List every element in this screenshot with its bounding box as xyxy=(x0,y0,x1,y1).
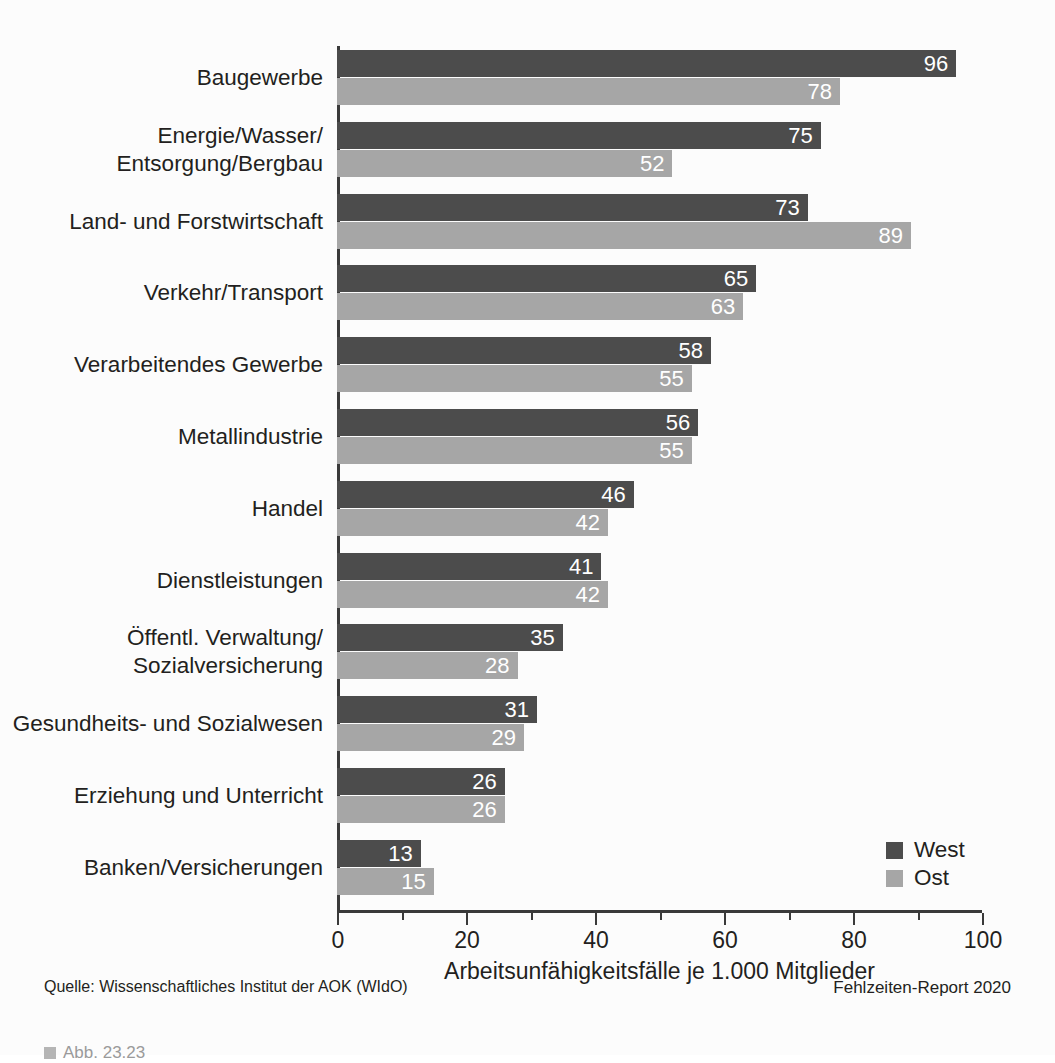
bar-value-label: 65 xyxy=(724,265,756,292)
category-label: Verkehr/Transport xyxy=(0,265,323,321)
caption-text: Abb. 23.23 xyxy=(63,1043,145,1063)
bar-ost[interactable] xyxy=(337,437,692,464)
figure-caption: Abb. 23.23 xyxy=(44,1043,145,1063)
bar-value-label: 26 xyxy=(472,768,504,795)
category-label-text: Baugewerbe xyxy=(197,64,323,92)
bar-value-label: 42 xyxy=(575,509,607,536)
bar-west[interactable] xyxy=(337,122,821,149)
category-label-text: Erziehung und Unterricht xyxy=(74,782,323,810)
bar-value-label: 89 xyxy=(879,222,911,249)
category-label-text: Banken/Versicherungen xyxy=(84,854,323,882)
bar-value-label: 31 xyxy=(504,696,536,723)
category-label-text: Verkehr/Transport xyxy=(144,279,323,307)
bar-west[interactable] xyxy=(337,553,601,580)
category-label: Öffentl. Verwaltung/ Sozialversicherung xyxy=(0,624,323,680)
bar-west[interactable] xyxy=(337,409,698,436)
bar-value-label: 35 xyxy=(530,624,562,651)
bar-value-label: 28 xyxy=(485,652,517,679)
bar-west[interactable] xyxy=(337,50,956,77)
bar-west[interactable] xyxy=(337,265,756,292)
bar-value-label: 26 xyxy=(472,796,504,823)
x-tick-major xyxy=(853,913,855,925)
x-tick-major xyxy=(982,913,984,925)
bar-ost[interactable] xyxy=(337,293,743,320)
x-tick-label: 40 xyxy=(583,927,609,954)
category-label: Metallindustrie xyxy=(0,409,323,465)
bar-value-label: 55 xyxy=(659,437,691,464)
category-label: Baugewerbe xyxy=(0,50,323,106)
bar-ost[interactable] xyxy=(337,365,692,392)
bar-ost[interactable] xyxy=(337,150,672,177)
category-label-text: Dienstleistungen xyxy=(157,567,323,595)
bar-west[interactable] xyxy=(337,194,808,221)
category-label-text: Verarbeitendes Gewerbe xyxy=(74,351,323,379)
x-tick-label: 100 xyxy=(964,927,1002,954)
bar-value-label: 96 xyxy=(924,50,956,77)
bar-ost[interactable] xyxy=(337,78,840,105)
category-label: Handel xyxy=(0,481,323,537)
bar-value-label: 29 xyxy=(492,724,524,751)
category-label-text: Land- und Forstwirtschaft xyxy=(69,208,323,236)
category-label: Gesundheits- und Sozialwesen xyxy=(0,696,323,752)
category-label-text: Metallindustrie xyxy=(178,423,323,451)
bar-value-label: 55 xyxy=(659,365,691,392)
caption-marker-icon xyxy=(44,1047,56,1059)
bar-west[interactable] xyxy=(337,624,563,651)
category-label-text: Energie/Wasser/ Entsorgung/Bergbau xyxy=(117,122,323,178)
bar-ost[interactable] xyxy=(337,222,911,249)
bar-value-label: 52 xyxy=(640,150,672,177)
x-tick-label: 0 xyxy=(332,927,345,954)
category-label: Banken/Versicherungen xyxy=(0,840,323,896)
category-label: Dienstleistungen xyxy=(0,553,323,609)
legend-item-west: West xyxy=(886,836,965,864)
bar-value-label: 46 xyxy=(601,481,633,508)
category-label: Energie/Wasser/ Entsorgung/Bergbau xyxy=(0,122,323,178)
legend-label-west: West xyxy=(914,837,965,863)
bar-value-label: 41 xyxy=(569,553,601,580)
x-tick-major xyxy=(337,913,339,925)
category-label-text: Handel xyxy=(252,495,323,523)
bar-value-label: 15 xyxy=(401,868,433,895)
bar-value-label: 75 xyxy=(788,122,820,149)
x-tick-major xyxy=(466,913,468,925)
x-tick-minor xyxy=(789,913,791,920)
x-tick-major xyxy=(724,913,726,925)
legend-swatch-ost-icon xyxy=(886,870,903,887)
bar-value-label: 58 xyxy=(679,337,711,364)
chart-legend: West Ost xyxy=(886,836,965,892)
x-tick-minor xyxy=(402,913,404,920)
bar-value-label: 56 xyxy=(666,409,698,436)
bar-value-label: 42 xyxy=(575,581,607,608)
bar-west[interactable] xyxy=(337,337,711,364)
category-label-text: Gesundheits- und Sozialwesen xyxy=(13,710,323,738)
legend-label-ost: Ost xyxy=(914,865,949,891)
source-note: Quelle: Wissenschaftliches Institut der … xyxy=(44,978,408,996)
bar-value-label: 63 xyxy=(711,293,743,320)
legend-item-ost: Ost xyxy=(886,864,965,892)
legend-swatch-west-icon xyxy=(886,842,903,859)
x-tick-minor xyxy=(918,913,920,920)
x-tick-label: 80 xyxy=(841,927,867,954)
category-label: Erziehung und Unterricht xyxy=(0,768,323,824)
bar-ost[interactable] xyxy=(337,581,608,608)
category-label: Land- und Forstwirtschaft xyxy=(0,194,323,250)
bar-value-label: 13 xyxy=(388,840,420,867)
bar-value-label: 78 xyxy=(808,78,840,105)
x-tick-label: 60 xyxy=(712,927,738,954)
bar-value-label: 73 xyxy=(775,194,807,221)
bar-ost[interactable] xyxy=(337,509,608,536)
report-note: Fehlzeiten-Report 2020 xyxy=(833,978,1011,998)
category-label: Verarbeitendes Gewerbe xyxy=(0,337,323,393)
x-tick-major xyxy=(595,913,597,925)
x-tick-minor xyxy=(660,913,662,920)
category-label-text: Öffentl. Verwaltung/ Sozialversicherung xyxy=(127,624,323,680)
x-tick-label: 20 xyxy=(454,927,480,954)
bar-west[interactable] xyxy=(337,481,634,508)
x-tick-minor xyxy=(531,913,533,920)
